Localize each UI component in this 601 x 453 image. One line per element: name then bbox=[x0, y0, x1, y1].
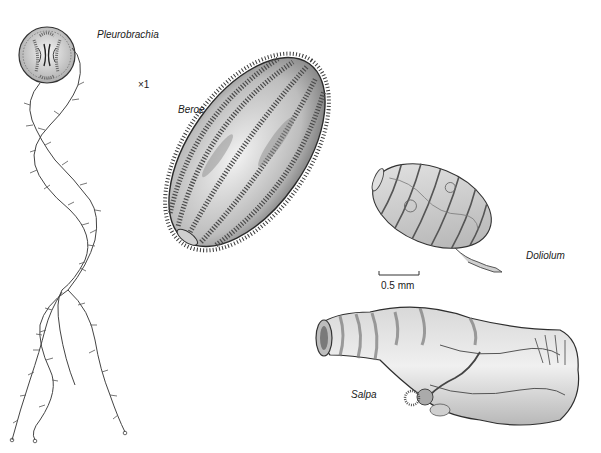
scale-bar-label: 0.5 mm bbox=[381, 280, 414, 291]
doliolum-stolon bbox=[455, 248, 502, 272]
salpa-label: Salpa bbox=[351, 389, 377, 400]
pleurobrachia-drawing bbox=[10, 27, 127, 443]
specimen-drawings bbox=[0, 0, 601, 453]
pleurobrachia-label: Pleurobrachia bbox=[97, 29, 159, 40]
salpa-drawing bbox=[316, 307, 579, 425]
beroe-drawing bbox=[132, 25, 362, 280]
beroe-label: Beroe bbox=[178, 104, 205, 115]
illustration-plate: Pleurobrachia ×1 Beroe Doliolum 0.5 mm S… bbox=[0, 0, 601, 453]
magnification-label: ×1 bbox=[138, 79, 149, 90]
doliolum-label: Doliolum bbox=[526, 250, 565, 261]
scale-bar-graphic bbox=[379, 271, 419, 275]
doliolum-drawing bbox=[358, 147, 503, 265]
